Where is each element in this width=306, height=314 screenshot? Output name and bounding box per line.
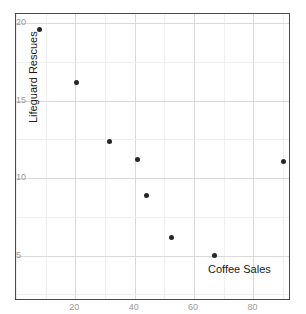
gridline-horizontal bbox=[16, 101, 289, 102]
data-point bbox=[107, 139, 112, 144]
x-tick-label: 60 bbox=[188, 302, 198, 312]
gridline-horizontal bbox=[16, 62, 289, 63]
gridline-horizontal bbox=[16, 256, 289, 257]
data-point bbox=[135, 157, 140, 162]
y-axis-title: Lifeguard Rescues bbox=[27, 31, 39, 123]
plot-area bbox=[15, 13, 290, 300]
y-tick-label: 20 bbox=[16, 17, 26, 27]
scatter-chart: 20406080 5101520 Coffee Sales Lifeguard … bbox=[0, 0, 306, 314]
data-point bbox=[281, 159, 286, 164]
y-tick-label: 15 bbox=[16, 95, 26, 105]
data-point bbox=[212, 253, 217, 258]
gridline-horizontal bbox=[16, 178, 289, 179]
gridline-horizontal bbox=[16, 217, 289, 218]
data-point bbox=[74, 80, 79, 85]
x-axis-title: Coffee Sales bbox=[208, 263, 271, 275]
data-point bbox=[169, 235, 174, 240]
gridline-horizontal bbox=[16, 139, 289, 140]
gridline-horizontal bbox=[16, 294, 289, 295]
gridline-horizontal bbox=[16, 23, 289, 24]
y-tick-label: 10 bbox=[16, 172, 26, 182]
x-tick-label: 40 bbox=[129, 302, 139, 312]
data-point bbox=[144, 193, 149, 198]
y-tick-label: 5 bbox=[16, 250, 21, 260]
x-tick-label: 80 bbox=[247, 302, 257, 312]
x-tick-label: 20 bbox=[69, 302, 79, 312]
